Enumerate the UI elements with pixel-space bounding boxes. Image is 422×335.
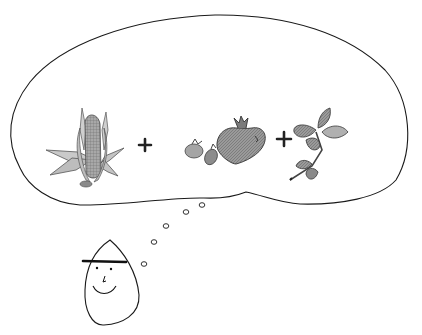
thought-bubble-5 [141,262,147,267]
thought-trail [141,203,205,267]
person [83,240,139,325]
thought-bubble-4 [151,240,157,245]
smile [93,286,116,294]
right-eye [110,268,112,270]
plus-sign-2: + [0,0,291,146]
basil-icon [290,108,348,180]
thought-cloud [11,15,408,205]
hat-brim [83,261,126,262]
plus-sign-1: + [0,0,151,151]
sketch-canvas: + + [0,0,422,335]
thought-bubble-2 [183,210,189,215]
head-outline [85,240,139,325]
thought-bubble-3 [163,224,169,229]
left-eye [96,267,98,269]
svg-text:+: + [0,0,13,4]
corn-icon [46,108,124,187]
nose [103,276,106,282]
thought-bubble-1 [199,203,205,208]
tomatoes-icon [185,116,265,167]
